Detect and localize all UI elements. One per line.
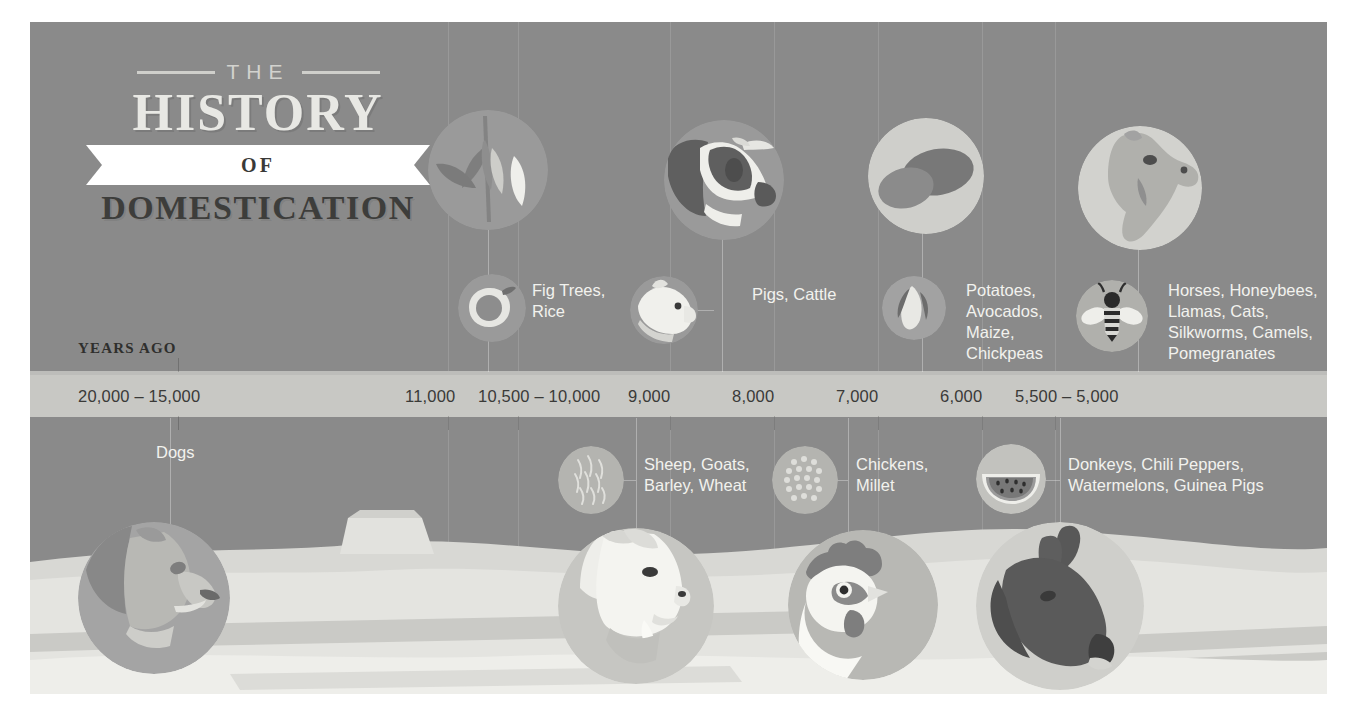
axis-tick (1055, 416, 1056, 430)
title-domestication: DOMESTICATION (78, 189, 438, 227)
honeybee-icon (1076, 280, 1148, 352)
title-block: THE HISTORY OF DOMESTICATION (78, 60, 438, 227)
connector-line (848, 418, 849, 534)
axis-caption: YEARS AGO (78, 340, 177, 357)
connector-line (636, 418, 637, 532)
callout-pigs-cattle: Pigs, Cattle (752, 284, 836, 305)
axis-label-3: 9,000 (628, 387, 670, 406)
callout-potatoes: Potatoes, Avocados, Maize, Chickpeas (966, 280, 1043, 364)
axis-tick (670, 416, 671, 430)
rule-right (302, 71, 380, 74)
donkey-head-icon (976, 522, 1144, 690)
infographic-panel: THE HISTORY OF DOMESTICATION YEARS AGO (30, 22, 1327, 694)
connector-line (722, 234, 723, 372)
axis-label-7: 5,500 – 5,000 (1015, 387, 1119, 406)
cow-head-icon (664, 120, 784, 240)
rule-left (137, 71, 215, 74)
fig-fruit-icon (458, 274, 526, 342)
callout-sheep-goats: Sheep, Goats, Barley, Wheat (644, 454, 750, 496)
axis-tick (774, 416, 775, 430)
axis-label-4: 8,000 (732, 387, 774, 406)
connector-line (170, 418, 171, 538)
title-the: THE (227, 60, 290, 84)
callout-dogs: Dogs (156, 442, 195, 463)
infographic-canvas: THE HISTORY OF DOMESTICATION YEARS AGO (0, 0, 1357, 722)
dog-head-icon (78, 522, 230, 674)
axis-label-6: 6,000 (940, 387, 982, 406)
callout-horses: Horses, Honeybees, Llamas, Cats, Silkwor… (1168, 280, 1318, 364)
rice-plant-icon (428, 110, 548, 230)
goat-head-icon (558, 528, 714, 684)
title-history: HISTORY (78, 86, 438, 139)
title-rule-row: THE (78, 60, 438, 84)
rooster-head-icon (788, 530, 938, 680)
callout-donkeys: Donkeys, Chili Peppers, Watermelons, Gui… (1068, 454, 1264, 496)
potato-icon (868, 118, 984, 234)
connector-line (1060, 418, 1061, 534)
axis-label-0: 20,000 – 15,000 (78, 387, 200, 406)
callout-fig-rice: Fig Trees, Rice (532, 280, 605, 322)
axis-tick (518, 416, 519, 430)
pig-head-icon (630, 276, 698, 344)
wheat-ear-icon (558, 446, 624, 514)
title-of: OF (78, 154, 438, 177)
axis-tick (178, 358, 179, 372)
title-ribbon: OF (78, 145, 438, 185)
maize-cob-icon (882, 276, 946, 340)
axis-label-5: 7,000 (836, 387, 878, 406)
axis-tick (178, 416, 179, 430)
axis-tick (448, 416, 449, 430)
axis-label-1: 11,000 (405, 387, 455, 406)
axis-label-2: 10,500 – 10,000 (478, 387, 600, 406)
axis-tick (878, 416, 879, 430)
camel-head-icon (1078, 126, 1202, 250)
timeline-band (30, 371, 1327, 417)
callout-chickens: Chickens, Millet (856, 454, 928, 496)
timeline-band-shadow (30, 371, 1327, 375)
millet-head-icon (772, 446, 838, 514)
watermelon-slice-icon (976, 444, 1046, 514)
axis-tick (982, 416, 983, 430)
